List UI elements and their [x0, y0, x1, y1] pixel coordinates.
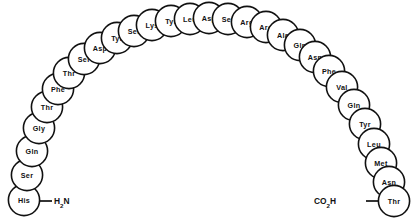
- residue-label: Tyr: [359, 120, 371, 129]
- residue-label: Thr: [388, 197, 401, 206]
- residue-label: His: [18, 196, 30, 205]
- residue-label: Gln: [347, 101, 360, 110]
- residue-label: Thr: [41, 103, 54, 112]
- peptide-diagram: HisSerGlnGlyThrPheThrSerAspTyrSerLysTyrL…: [0, 0, 418, 219]
- peptide-sequence-svg: HisSerGlnGlyThrPheThrSerAspTyrSerLysTyrL…: [0, 0, 418, 219]
- residue-label: Gln: [25, 147, 38, 156]
- residue-label: Val: [336, 83, 347, 92]
- residue-node: Thr: [378, 185, 409, 216]
- terminus-labels: H2N CO2H: [54, 196, 336, 209]
- residue-circles: HisSerGlnGlyThrPheThrSerAspTyrSerLysTyrL…: [8, 2, 409, 216]
- c-terminus-label: CO2H: [314, 196, 336, 209]
- residue-label: Ser: [21, 171, 34, 180]
- n-terminus-label: H2N: [54, 196, 70, 209]
- residue-label: Gly: [33, 124, 46, 133]
